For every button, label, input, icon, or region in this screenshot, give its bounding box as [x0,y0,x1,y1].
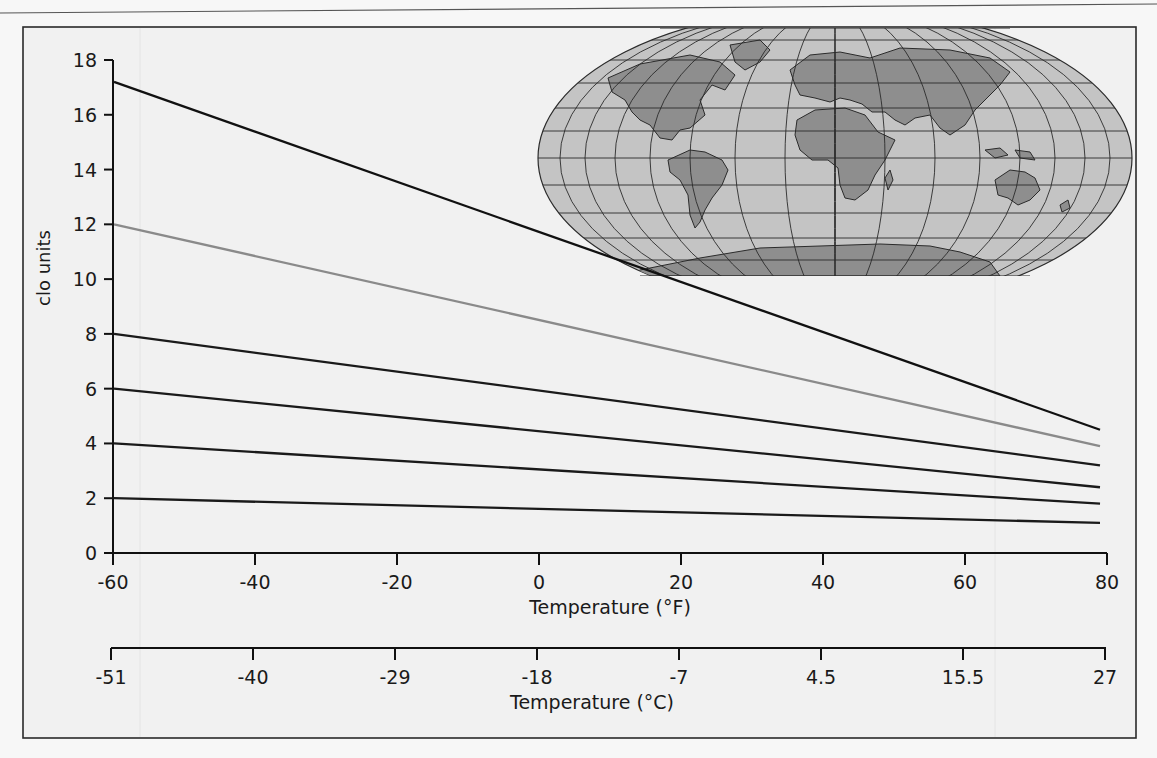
y-tick-label: 18 [73,49,97,71]
y-tick-label: 4 [85,432,97,454]
y-tick-label: 8 [85,323,97,345]
x-tick-label: -40 [239,571,270,593]
y-tick-label: 14 [73,159,97,181]
x-tick-label: -60 [97,571,128,593]
x-axis-label-fahrenheit: Temperature (°F) [528,596,691,618]
x-tick-label: -20 [381,571,412,593]
x2-tick-label: 4.5 [806,666,836,688]
x2-tick-label: -29 [379,666,410,688]
y-tick-label: 6 [85,378,97,400]
y-tick-label: 2 [85,487,97,509]
x-tick-label: 60 [953,571,977,593]
y-tick-label: 10 [73,268,97,290]
x-tick-label: 20 [669,571,693,593]
x2-tick-label: -40 [237,666,268,688]
y-axis-label: clo units [33,230,54,306]
x2-tick-label: 15.5 [942,666,984,688]
x2-tick-label: -18 [521,666,552,688]
x2-tick-label: -7 [670,666,689,688]
x2-tick-label: -51 [95,666,126,688]
y-tick-label: 16 [73,104,97,126]
x-tick-label: 0 [533,571,545,593]
x-tick-label: 80 [1095,571,1119,593]
page-rule [0,4,1157,13]
y-tick-label: 12 [73,213,97,235]
chart-figure: 024681012141618 clo units -60-40-2002040… [0,0,1157,758]
x-tick-label: 40 [811,571,835,593]
x-axis-label-celsius: Temperature (°C) [509,691,674,713]
y-tick-label: 0 [85,542,97,564]
x2-tick-label: 27 [1093,666,1117,688]
